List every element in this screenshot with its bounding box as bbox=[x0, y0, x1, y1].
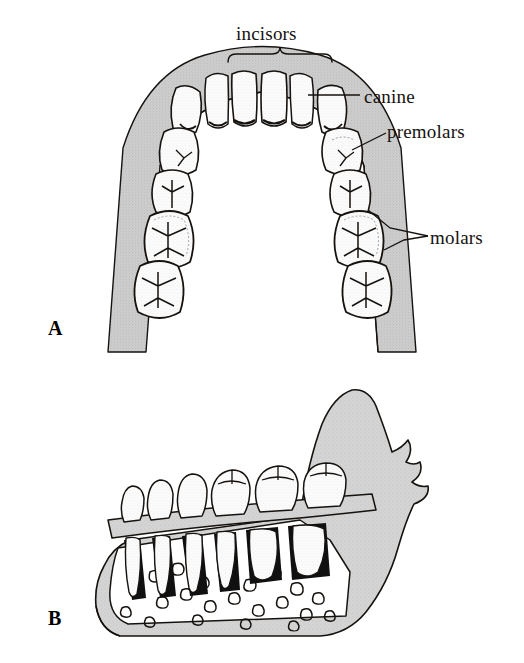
panel-label-a: A bbox=[48, 318, 62, 338]
tooth-group-molars bbox=[134, 211, 391, 318]
label-molars: molars bbox=[430, 228, 483, 247]
label-incisors: incisors bbox=[236, 24, 297, 43]
tooth-group-premolars bbox=[152, 128, 371, 217]
label-canine: canine bbox=[364, 87, 415, 106]
dentition-illustration bbox=[0, 0, 524, 663]
panel-label-b: B bbox=[48, 608, 61, 628]
label-premolars: premolars bbox=[387, 122, 465, 141]
panel-b-mandible bbox=[96, 390, 429, 636]
figure-root: incisors canine premolars molars A B bbox=[0, 0, 524, 663]
